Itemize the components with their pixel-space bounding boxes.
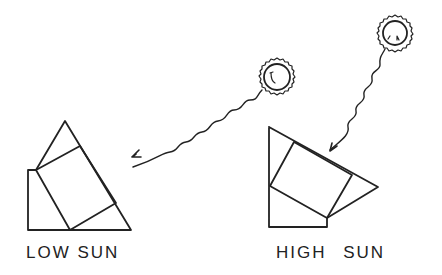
diagram-canvas [0, 0, 442, 275]
high-sun-solid [269, 127, 378, 227]
label-high-sun: HIGH SUN [276, 243, 385, 263]
low-sun-solid [28, 121, 131, 230]
label-low-sun: LOW SUN [26, 243, 119, 263]
sun-icon-high [377, 15, 413, 52]
arrowhead-low [132, 150, 141, 157]
sunray-low [133, 90, 262, 167]
sunray-high [330, 49, 385, 150]
solar-diagram: LOW SUN HIGH SUN [0, 0, 442, 275]
sun-icon-low [259, 58, 295, 95]
